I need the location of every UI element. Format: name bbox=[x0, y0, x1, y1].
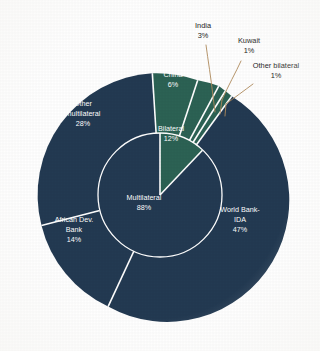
label-world-bank-ida-line1: World Bank- bbox=[220, 205, 260, 214]
label-multilateral-name: Multilateral bbox=[127, 193, 162, 202]
label-african-dev-bank-line1: African Dev. bbox=[55, 215, 94, 224]
label-world-bank-ida-value: 47% bbox=[233, 225, 248, 234]
callout-kuwait-value: 1% bbox=[244, 46, 255, 55]
label-other-multilateral-value: 28% bbox=[76, 119, 91, 128]
label-african-dev-bank-value: 14% bbox=[67, 235, 82, 244]
label-multilateral-value: 88% bbox=[137, 203, 152, 212]
label-other-multilateral-line2: multilateral bbox=[66, 109, 101, 118]
leader-line-other-bilateral bbox=[226, 84, 253, 104]
label-african-dev-bank-line2: Bank bbox=[66, 225, 83, 234]
callout-other-bilateral-value: 1% bbox=[271, 71, 282, 80]
label-bilateral-value: 12% bbox=[164, 134, 179, 143]
pie-chart-svg: China 6% Other multilateral 28% Bilatera… bbox=[0, 0, 320, 351]
label-bilateral-name: Bilateral bbox=[158, 124, 184, 133]
callout-india-name: India bbox=[195, 21, 212, 30]
leader-line-kuwait bbox=[222, 61, 241, 100]
callout-labels: India 3% Kuwait 1% Other bilateral 1% bbox=[195, 21, 300, 80]
callout-india-value: 3% bbox=[198, 31, 209, 40]
label-world-bank-ida-line2: IDA bbox=[234, 215, 246, 224]
callout-kuwait-name: Kuwait bbox=[238, 36, 260, 45]
callout-other-bilateral-name: Other bilateral bbox=[253, 61, 300, 70]
label-other-multilateral-line1: Other bbox=[74, 99, 93, 108]
label-china-name: China bbox=[164, 70, 183, 79]
label-china-value: 6% bbox=[168, 80, 179, 89]
pie-chart: China 6% Other multilateral 28% Bilatera… bbox=[0, 0, 320, 351]
